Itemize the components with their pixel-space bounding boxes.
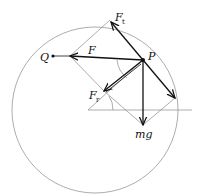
- label-f: F: [87, 44, 96, 57]
- force-ft-arrow: [111, 22, 143, 60]
- force-diagram: Q P F F t F r mg: [0, 0, 203, 196]
- force-fr-arrow-double: [106, 64, 141, 92]
- label-mg: mg: [135, 128, 152, 141]
- construction-line: [104, 91, 143, 125]
- label-p: P: [147, 50, 156, 63]
- point-q: [51, 54, 54, 57]
- label-q: Q: [40, 51, 49, 64]
- construction-line: [70, 56, 104, 91]
- point-p: [141, 58, 145, 62]
- force-fr-arrow: [104, 60, 143, 91]
- label-ft-sub: t: [122, 18, 125, 26]
- construction-line: [143, 98, 175, 125]
- angle-arc: [117, 60, 127, 78]
- force-f-arrow: [70, 56, 143, 60]
- force-tangential-arrow: [143, 60, 175, 98]
